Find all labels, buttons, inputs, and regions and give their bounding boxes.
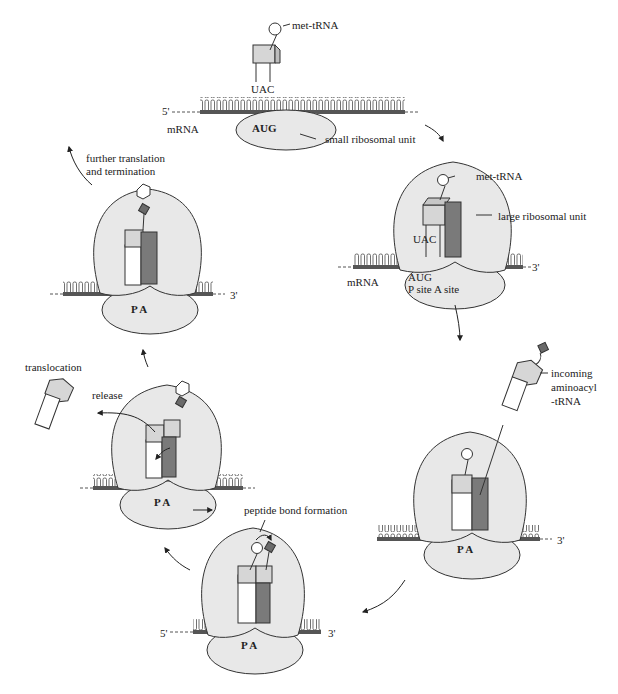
label-anticodon-1: UAC	[251, 82, 274, 96]
label-sites-5: P A	[154, 495, 170, 509]
label-sites-2: P site A site	[408, 282, 459, 296]
label-three-prime-2: 3'	[532, 260, 539, 274]
label-peptide-bond: peptide bond formation	[244, 503, 347, 517]
label-anticodon-2: UAC	[413, 232, 436, 246]
label-sites-6: P A	[131, 302, 147, 316]
arrow-incoming-to-peptide	[363, 580, 405, 612]
label-small-unit: small ribosomal unit	[325, 132, 415, 146]
label-sites-3: P A	[457, 542, 473, 556]
released-trna	[34, 375, 75, 432]
label-large-unit: large ribosomal unit	[498, 209, 586, 223]
small-ribosomal-unit	[236, 110, 336, 150]
label-release: release	[92, 388, 123, 402]
label-met-trna-2: met-tRNA	[476, 169, 522, 183]
label-incoming-3: -tRNA	[551, 394, 581, 408]
label-three-prime-6: 3'	[230, 288, 237, 302]
arrow-peptide-to-translocation	[165, 548, 190, 570]
label-sites-4: P A	[241, 638, 257, 652]
incoming-aminoacyl-trna	[502, 336, 552, 414]
label-five-prime-1: 5'	[162, 104, 169, 118]
arrow-assembly-to-incoming	[455, 305, 460, 340]
panel-translocation	[34, 375, 255, 529]
label-codon-1: AUG	[252, 121, 276, 135]
label-met-trna-1: met-tRNA	[292, 18, 338, 32]
arrow-translocation-to-termination	[143, 350, 148, 367]
met-trna	[253, 23, 290, 82]
arrow-initiation-to-assembly	[425, 125, 443, 141]
translation-diagram	[0, 0, 618, 694]
label-further-1: further translation	[86, 151, 165, 165]
methionine-icon	[269, 23, 281, 35]
label-mrna-2: mRNA	[347, 275, 379, 289]
label-further-2: and termination	[86, 164, 155, 178]
label-mrna-1: mRNA	[167, 122, 199, 136]
label-three-prime-4: 3'	[328, 626, 335, 640]
mrna-bases	[200, 97, 405, 110]
panel-initiation	[172, 23, 420, 150]
label-translocation: translocation	[25, 360, 82, 374]
label-incoming-1: incoming	[551, 366, 593, 380]
label-incoming-2: aminoacyl	[551, 380, 597, 394]
label-five-prime-4: 5'	[160, 626, 167, 640]
label-three-prime-3: 3'	[557, 533, 564, 547]
